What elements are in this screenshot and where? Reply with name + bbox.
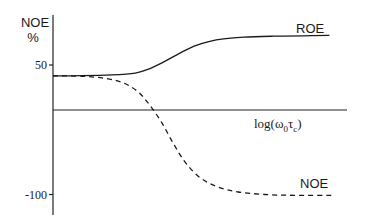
series-line-roe (53, 35, 329, 76)
x-axis-label: log(ω0τc) (254, 116, 302, 134)
y-tick-label: 50 (35, 58, 47, 72)
annotation-roe: ROE (296, 21, 325, 36)
annotations: ROENOE (296, 21, 329, 191)
y-axis-label-line1: NOE (21, 15, 50, 30)
series-line-noe (53, 76, 335, 196)
x-axis-label-end: ) (297, 116, 301, 131)
y-axis-label-line2: % (27, 30, 39, 45)
y-ticks: 50-100 (25, 58, 53, 202)
y-tick-label: -100 (25, 188, 47, 202)
annotation-noe: NOE (300, 176, 329, 191)
noe-roe-chart: 50-100 NOE % ROENOE log(ω0τc) (0, 0, 368, 220)
x-axis-label-base: log(ω (254, 116, 284, 131)
